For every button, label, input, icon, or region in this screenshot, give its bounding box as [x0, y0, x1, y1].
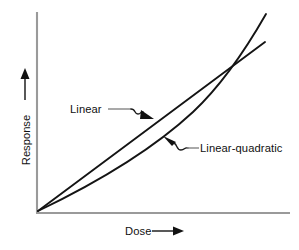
linear-quadratic-series-label: Linear-quadratic	[200, 143, 282, 154]
linear-annotation-leader	[108, 109, 154, 119]
y-axis-label: Response	[20, 102, 32, 178]
y-axis-label-container: Response	[0, 104, 52, 184]
dose-response-figure: Linear Linear-quadratic Dose Response	[0, 0, 299, 250]
x-axis-label: Dose	[125, 226, 152, 237]
linear-series-label: Linear	[70, 104, 102, 115]
arrow-right-icon	[152, 227, 184, 236]
linear-quadratic-squiggle-icon	[174, 143, 188, 150]
linear-quadratic-arrowhead-icon	[163, 136, 176, 146]
arrow-up-icon	[21, 68, 30, 100]
linear-arrowhead-icon	[140, 110, 154, 119]
linear-quadratic-annotation-leader	[163, 136, 199, 150]
